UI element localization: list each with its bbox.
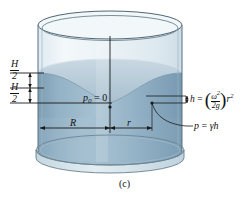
- h-formula-r-exponent: 2: [230, 92, 233, 99]
- h-arrow-bottom: [28, 99, 32, 103]
- h-formula-fraction: ω2 2g: [211, 90, 220, 110]
- h-half-bottom-numerator: H: [10, 82, 19, 92]
- label-radius-r: r: [127, 118, 131, 128]
- h-half-top-denominator: 2: [10, 71, 19, 81]
- label-p-formula: p = γh: [194, 121, 219, 131]
- label-h-half-top: H 2: [10, 59, 19, 82]
- p0-equals: = 0: [94, 92, 107, 103]
- figure-caption: (c): [0, 178, 249, 189]
- label-h-half-bottom: H 2: [10, 82, 19, 105]
- h-arrow-mid-down: [28, 88, 32, 92]
- h-formula-omega-term: ω2: [211, 90, 220, 101]
- label-p0: p0 = 0: [83, 93, 107, 105]
- h-formula-denominator: 2g: [211, 102, 220, 110]
- label-radius-R: R: [70, 118, 76, 128]
- label-h-formula: h = ( ω2 2g )r2: [190, 90, 233, 110]
- p0-point: [108, 105, 111, 108]
- h-half-top-numerator: H: [10, 59, 19, 69]
- h-arrow-top: [28, 73, 32, 77]
- h-half-bottom-denominator: 2: [10, 94, 19, 104]
- h-arrow-mid-up: [28, 84, 32, 88]
- rotating-cylinder-figure: H 2 H 2 p0 = 0 R r h = ( ω2 2g )r2 p = γ…: [0, 0, 249, 200]
- p-formula-h: h: [214, 120, 219, 131]
